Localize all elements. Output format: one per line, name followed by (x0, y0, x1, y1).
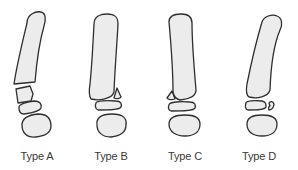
label-type-b: Type B (74, 150, 148, 162)
bone-diagram-type-b (74, 0, 148, 145)
bone-diagram-type-a (0, 0, 74, 145)
bone-diagram-type-c (148, 0, 222, 145)
figure-type-a: Type A (0, 0, 74, 170)
avulsion-fragment (114, 88, 121, 99)
distal-bone (22, 114, 51, 137)
proximal-bone-shaft (14, 12, 45, 84)
figure-type-d: Type D (222, 0, 296, 170)
figure-type-c: Type C (148, 0, 222, 170)
fracture-fragment (16, 86, 33, 103)
label-type-d: Type D (222, 150, 296, 162)
middle-bone (95, 101, 121, 110)
distal-bone (169, 115, 200, 136)
middle-bone (168, 102, 195, 111)
proximal-bone (89, 14, 118, 100)
middle-bone (245, 101, 266, 110)
label-type-c: Type C (148, 150, 222, 162)
label-type-a: Type A (0, 150, 74, 162)
proximal-bone (169, 14, 196, 100)
figure-type-b: Type B (74, 0, 148, 170)
distal-bone (97, 114, 126, 137)
proximal-bone (246, 15, 281, 97)
bone-diagram-type-d (222, 0, 296, 145)
distal-bone (247, 115, 277, 136)
chip-fragment (269, 102, 274, 110)
